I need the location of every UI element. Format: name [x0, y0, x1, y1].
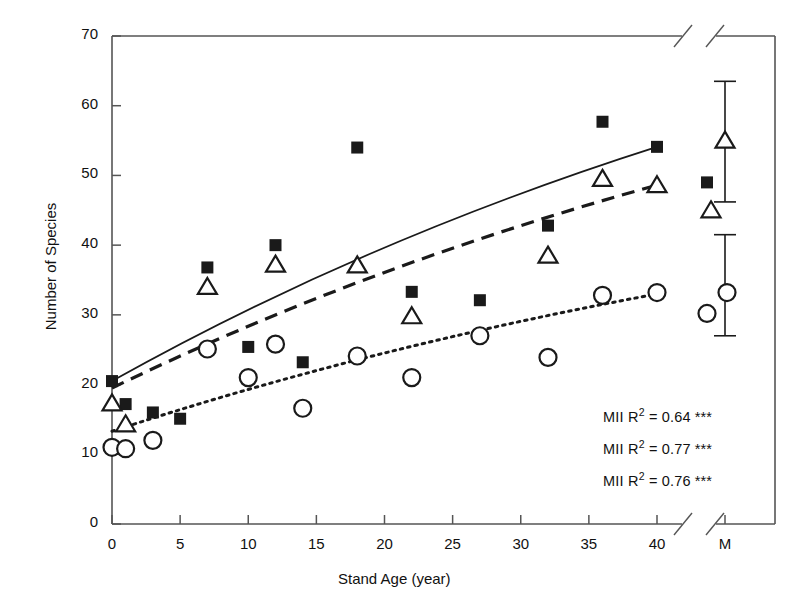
y-tick-label-10: 10: [38, 443, 98, 460]
annotation-stars-0: ***: [691, 409, 712, 425]
marker-filled-square: [651, 141, 663, 153]
x-tick-label-25: 25: [423, 535, 483, 552]
marker-open-triangle: [198, 278, 217, 294]
marker-filled-square: [201, 261, 213, 273]
marker-filled-square: [474, 294, 486, 306]
marker-open-triangle: [648, 176, 667, 192]
annotation-r2-solid: MII R2 = 0.64 ***: [603, 409, 712, 425]
x-tick-label-40: 40: [627, 535, 687, 552]
plot-frame: [112, 25, 775, 535]
annotation-stars-1: ***: [691, 441, 712, 457]
marker-open-triangle: [103, 394, 122, 410]
x-tick-label-mature: M: [695, 535, 755, 552]
marker-open-circle: [117, 440, 134, 457]
annotation-value-0: = 0.64: [645, 409, 691, 425]
x-tick-label-5: 5: [150, 535, 210, 552]
mature-marker-open-triangle: [702, 201, 721, 217]
y-tick-label-0: 0: [38, 513, 98, 530]
data-point-markers: [103, 116, 667, 457]
marker-open-circle: [403, 369, 420, 386]
x-tick-label-20: 20: [355, 535, 415, 552]
regression-fit-lines: [112, 147, 657, 431]
marker-open-circle: [649, 284, 666, 301]
y-tick-label-20: 20: [38, 374, 98, 391]
marker-filled-square: [351, 142, 363, 154]
annotation-value-2: = 0.76: [645, 473, 691, 489]
annotation-r2-dotted: MII R2 = 0.76 ***: [603, 473, 712, 489]
annotation-r2-dashed: MII R2 = 0.77 ***: [603, 441, 712, 457]
mature-stand-markers: [699, 81, 737, 335]
mature-marker-open-circle: [699, 305, 716, 322]
x-tick-label-30: 30: [491, 535, 551, 552]
marker-open-circle: [540, 349, 557, 366]
scatter-plot-canvas: [0, 0, 807, 614]
marker-open-circle: [267, 336, 284, 353]
chart-figure: Number of Species Stand Age (year) MII R…: [0, 0, 807, 614]
fit-line-solid: [112, 147, 657, 381]
y-tick-label-30: 30: [38, 304, 98, 321]
marker-filled-square: [174, 413, 186, 425]
mature-marker-open-triangle: [716, 132, 735, 148]
marker-filled-square: [242, 341, 254, 353]
annotation-label-2: MII R: [603, 473, 639, 489]
y-tick-label-40: 40: [38, 234, 98, 251]
mature-marker-open-circle: [719, 284, 736, 301]
marker-open-triangle: [266, 256, 285, 272]
marker-filled-square: [597, 116, 609, 128]
x-axis-title: Stand Age (year): [338, 570, 451, 587]
marker-open-triangle: [539, 247, 558, 263]
fit-line-dotted: [112, 294, 657, 431]
mature-marker-filled-square: [701, 176, 713, 188]
x-tick-label-0: 0: [82, 535, 142, 552]
x-tick-label-35: 35: [559, 535, 619, 552]
marker-filled-square: [406, 286, 418, 298]
marker-filled-square: [270, 239, 282, 251]
marker-filled-square: [106, 375, 118, 387]
marker-open-circle: [594, 287, 611, 304]
annotation-value-1: = 0.77: [645, 441, 691, 457]
marker-filled-square: [147, 406, 159, 418]
annotation-label-1: MII R: [603, 441, 639, 457]
marker-open-circle: [199, 341, 216, 358]
marker-open-circle: [144, 432, 161, 449]
y-tick-label-50: 50: [38, 164, 98, 181]
annotation-label-0: MII R: [603, 409, 639, 425]
marker-open-circle: [294, 400, 311, 417]
marker-open-circle: [240, 369, 257, 386]
marker-open-triangle: [402, 307, 421, 323]
y-axis-title: Number of Species: [42, 157, 59, 377]
marker-open-triangle: [348, 256, 367, 272]
x-tick-label-10: 10: [218, 535, 278, 552]
y-tick-label-60: 60: [38, 95, 98, 112]
annotation-stars-2: ***: [691, 473, 712, 489]
marker-filled-square: [297, 356, 309, 368]
marker-open-circle: [471, 327, 488, 344]
fit-line-dashed: [112, 185, 657, 388]
y-tick-label-70: 70: [38, 25, 98, 42]
marker-filled-square: [542, 220, 554, 232]
marker-open-circle: [349, 347, 366, 364]
marker-open-triangle: [593, 170, 612, 186]
x-tick-label-15: 15: [286, 535, 346, 552]
